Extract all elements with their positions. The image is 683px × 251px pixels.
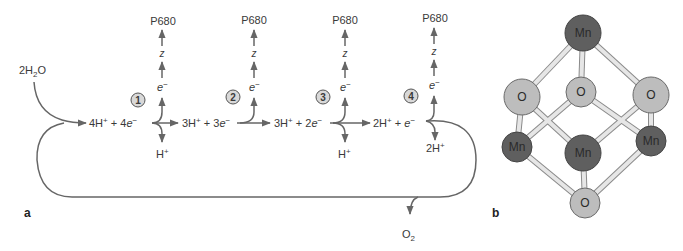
step-4-acceptor: P680 [422, 12, 448, 24]
step-4: 4 e− z P680 2H+ [404, 12, 448, 154]
svg-text:O: O [580, 196, 589, 210]
step-1-carrier: z [159, 48, 165, 59]
step-3-electron-arrow [333, 98, 345, 123]
step-3-proton: H+ [338, 147, 351, 160]
atom-o-center: O [566, 77, 596, 107]
cycle-return-loop [37, 121, 476, 197]
svg-text:Mn: Mn [575, 146, 592, 160]
svg-text:O: O [576, 85, 585, 99]
step-4-number: 4 [408, 91, 414, 102]
panel-a-label: a [24, 206, 31, 220]
atom-mn-right: Mn [636, 126, 666, 156]
atom-o-right: O [633, 77, 669, 113]
step-3-proton-arrow [333, 123, 345, 142]
step-2: 2 e− z P680 [226, 14, 270, 123]
atom-o-left: O [504, 79, 540, 115]
step-1-electron: e− [157, 80, 168, 93]
svg-text:Mn: Mn [643, 134, 660, 148]
step-4-carrier: z [431, 46, 437, 57]
state-3-label: 3H+ + 2e− [274, 116, 323, 129]
step-2-number: 2 [230, 92, 236, 103]
step-2-carrier: z [251, 48, 257, 59]
svg-text:O: O [646, 88, 655, 102]
oxygen-release-arrow [410, 197, 418, 214]
step-1-number: 1 [135, 95, 141, 106]
atom-mn-center: Mn [565, 135, 601, 171]
bonds-fill [517, 33, 651, 203]
step-1-electron-arrow [152, 98, 162, 123]
step-4-electron-arrow [426, 96, 434, 121]
svg-text:Mn: Mn [509, 140, 526, 154]
atom-mn-left: Mn [502, 132, 532, 162]
water-input-arrow [34, 82, 86, 123]
state-2-label: 3H+ + 3e− [182, 116, 231, 129]
panel-a: 2H2O O2 4H+ + 4e− 3H+ + 3e− 3H+ + 2e− 2H… [19, 12, 476, 243]
panel-b-label: b [492, 206, 499, 220]
step-4-proton: 2H+ [426, 141, 445, 154]
step-2-electron-arrow [240, 98, 254, 123]
step-1-proton: H+ [156, 147, 169, 160]
svg-text:Mn: Mn [575, 26, 592, 40]
step-3-electron: e− [340, 80, 351, 93]
diagram-canvas: 2H2O O2 4H+ + 4e− 3H+ + 3e− 3H+ + 2e− 2H… [0, 0, 683, 251]
step-1-proton-arrow [152, 123, 162, 142]
step-1-acceptor: P680 [150, 15, 176, 27]
step-2-electron: e− [249, 80, 260, 93]
reactant-water: 2H2O [19, 64, 47, 79]
step-4-electron: e− [429, 78, 440, 91]
svg-text:O: O [517, 90, 526, 104]
step-3-acceptor: P680 [332, 14, 358, 26]
panel-b: O Mn Mn O O Mn O Mn b [492, 15, 669, 220]
step-1: 1 e− z P680 H+ [131, 15, 178, 160]
step-3: 3 e− z P680 H+ [316, 14, 370, 160]
step-3-carrier: z [342, 48, 348, 59]
step-2-acceptor: P680 [241, 14, 267, 26]
step-4-proton-arrow [426, 121, 435, 140]
step-3-number: 3 [320, 92, 326, 103]
atom-o-bottom: O [570, 188, 600, 218]
atom-mn-top: Mn [565, 15, 601, 51]
state-1-label: 4H+ + 4e− [89, 116, 138, 129]
product-oxygen: O2 [402, 228, 416, 243]
state-4-label: 2H+ + e− [373, 116, 415, 129]
